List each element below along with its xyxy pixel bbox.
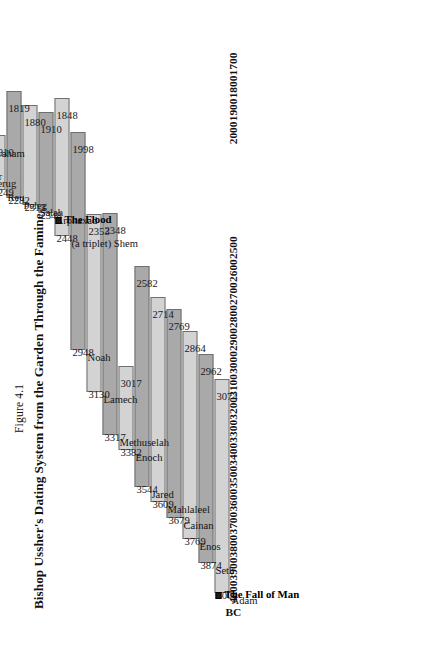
bar-seth[interactable]: 38742962 [198, 354, 213, 563]
bar-label-cainan: Cainan [183, 520, 213, 531]
bar-end-year: 3074 [216, 391, 228, 402]
event-label: The Flood [64, 213, 111, 225]
axis-tick-3000: 3000 [226, 351, 238, 374]
square-bullet-icon [215, 592, 221, 599]
bar-end-year: 2864 [184, 343, 196, 354]
bar-end-year: 2962 [200, 366, 212, 377]
bar-label-methuselah: Methuselah [119, 437, 168, 448]
bar-label-abraham: (a triplet) Abraham [0, 148, 24, 159]
axis-tick-1800: 1800 [226, 76, 238, 99]
bar-label-noah: Noah [87, 353, 110, 364]
bar-end-year: 2769 [168, 321, 180, 332]
bar-label-reu: Reu [7, 192, 24, 203]
square-bullet-icon [55, 217, 61, 224]
bar-label-nahor: Nahor [0, 171, 1, 182]
figure-stage: Figure 4.1 Bishop Ussher's Dating System… [0, 0, 441, 664]
axis-tick-2500: 2500 [226, 236, 238, 259]
bar-end-year: 1848 [56, 110, 68, 121]
axis-tick-2700: 2700 [226, 282, 238, 305]
axis-unit-label: BC [225, 606, 241, 618]
axis-tick-2600: 2600 [226, 259, 238, 282]
event-marker-the-flood[interactable]: The Flood [55, 213, 111, 225]
bar-end-year: 2714 [152, 309, 164, 320]
axis-tick-2900: 2900 [226, 328, 238, 351]
bar-end-year: 1880 [24, 117, 36, 128]
bar-end-year: 1998 [72, 144, 84, 155]
axis-tick-1700: 1700 [226, 53, 238, 76]
bar-label-enoch: Enoch [135, 452, 162, 463]
event-marker-fall-of-man[interactable]: The Fall of Man [215, 588, 299, 600]
bar-end-year: 2582 [136, 279, 148, 290]
bar-label-serug: Serug [0, 178, 16, 189]
bar-end-year: 2353 [88, 226, 100, 237]
axis-tick-1900: 1900 [226, 99, 238, 122]
event-label: The Fall of Man [224, 588, 299, 600]
bar-mahlaleel[interactable]: 36092714 [150, 297, 165, 502]
bar-label-enos: Enos [199, 541, 220, 552]
bar-label-mahlaleel: Mahlaleel [167, 504, 209, 515]
bar-cainan[interactable]: 36792769 [166, 309, 181, 518]
axis-tick-2800: 2800 [226, 305, 238, 328]
axis-tick-2000: 2000 [226, 121, 238, 144]
bar-label-jared: Jared [151, 489, 173, 500]
bar-label-shem: (a triplet) Shem [71, 238, 138, 249]
bar-end-year: 3017 [120, 378, 132, 389]
bar-label-seth: Seth [215, 565, 234, 576]
bar-label-peleg: Peleg [23, 200, 47, 211]
bar-label-lamech: Lamech [103, 394, 137, 405]
bar-end-year: 1819 [8, 103, 20, 114]
